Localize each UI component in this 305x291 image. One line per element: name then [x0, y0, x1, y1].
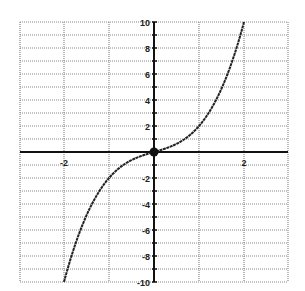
y-tick-label: 2 — [145, 122, 150, 132]
y-tick-label: 6 — [145, 70, 150, 80]
y-tick-label: 10 — [140, 18, 150, 28]
y-tick-label: -8 — [142, 252, 150, 262]
x-tick-label: -2 — [60, 158, 68, 168]
y-tick-label: -6 — [142, 226, 150, 236]
y-tick-label: 4 — [145, 96, 150, 106]
x-tick-label: 2 — [241, 158, 246, 168]
origin-point — [150, 148, 159, 157]
y-tick-label: -2 — [142, 174, 150, 184]
y-tick-label: 8 — [145, 44, 150, 54]
y-tick-label: -4 — [142, 200, 150, 210]
y-tick-label: -10 — [137, 278, 150, 288]
function-graph: 108642-2-4-6-8-10-22 — [0, 0, 305, 291]
